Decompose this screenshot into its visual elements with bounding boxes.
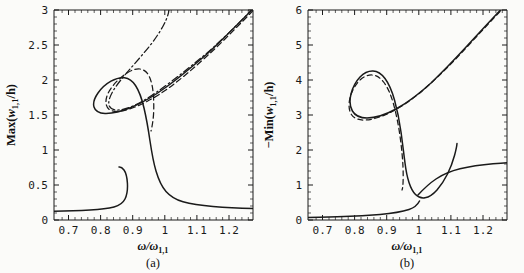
x-tick-label: 1.2 <box>473 224 493 237</box>
curve-solid-upper-a <box>94 9 253 209</box>
panel-caption-b: (b) <box>400 256 415 271</box>
curve-dashed-b <box>349 12 500 191</box>
y-axis-title-variable: w <box>262 107 276 115</box>
y-axis-title-suffix: /h) <box>262 81 276 96</box>
x-tick-label: 1.2 <box>219 224 239 237</box>
chart-panel-a: 0 0.5 1 1.5 2 2.5 3 0.7 0.8 0.9 1 1.1 1.… <box>0 0 262 273</box>
curve-dashdot-a <box>109 8 253 110</box>
y-tick-label: 2 <box>278 144 302 157</box>
x-axis-title-a: ω/ω1,1 <box>138 239 169 255</box>
y-tick-label: 4 <box>278 74 302 87</box>
x-tick-label: 1 <box>415 224 422 237</box>
y-axis-title-subscript: 1,1 <box>268 96 278 107</box>
figure-container: 0 0.5 1 1.5 2 2.5 3 0.7 0.8 0.9 1 1.1 1.… <box>0 0 524 273</box>
x-tick-label: 0.9 <box>123 224 143 237</box>
y-axis-title-suffix: /h) <box>4 84 18 99</box>
x-axis-title-b: ω/ω1,1 <box>392 239 423 255</box>
y-tick-label: 0 <box>278 214 302 227</box>
y-tick-label: 2 <box>24 74 48 87</box>
curve-solid-lower-a <box>54 167 128 211</box>
x-tick-label: 1.1 <box>187 224 207 237</box>
x-major-ticks-a <box>69 10 230 220</box>
x-axis-title-text: ω/ω <box>138 239 159 253</box>
y-axis-title-b: −Min(w1,1/h) <box>262 81 279 148</box>
x-axis-title-subscript: 1,1 <box>412 246 422 255</box>
x-axis-title-text: ω/ω <box>392 239 413 253</box>
curve-solid-right-b <box>418 163 507 195</box>
y-major-ticks-b <box>308 10 507 220</box>
x-tick-label: 0.8 <box>91 224 111 237</box>
y-tick-label: 2.5 <box>16 39 48 52</box>
y-tick-label: 6 <box>278 4 302 17</box>
x-minor-ticks-b <box>316 10 502 220</box>
y-tick-label: 1 <box>278 179 302 192</box>
x-axis-title-subscript: 1,1 <box>158 246 168 255</box>
curve-solid-upper-b <box>350 10 501 198</box>
y-axis-title-prefix: −Min( <box>262 115 276 149</box>
y-tick-label: 3 <box>24 4 48 17</box>
panel-caption-a: (a) <box>146 256 160 271</box>
y-axis-title-a: Max(w1,1/h) <box>4 84 21 146</box>
x-tick-label: 1.1 <box>441 224 461 237</box>
curve-solid-lower-b <box>308 201 420 217</box>
y-axis-title-subscript: 1,1 <box>10 99 20 110</box>
y-tick-label: 1 <box>24 144 48 157</box>
y-tick-label: 0.5 <box>16 179 48 192</box>
y-axis-title-prefix: Max( <box>4 118 18 146</box>
y-tick-label: 3 <box>278 109 302 122</box>
x-tick-label: 0.7 <box>313 224 333 237</box>
x-tick-label: 0.8 <box>345 224 365 237</box>
x-tick-label: 1 <box>161 224 168 237</box>
y-minor-ticks-b <box>308 17 507 213</box>
y-tick-label: 5 <box>278 39 302 52</box>
y-tick-label: 0 <box>24 214 48 227</box>
chart-panel-b: 0 1 2 3 4 5 6 0.7 0.8 0.9 1 1.1 1.2 ω/ω1… <box>262 0 524 273</box>
x-tick-label: 0.7 <box>59 224 79 237</box>
y-axis-title-variable: w <box>4 109 18 117</box>
x-tick-label: 0.9 <box>377 224 397 237</box>
y-tick-label: 1.5 <box>16 109 48 122</box>
axis-frame-b <box>308 10 507 220</box>
